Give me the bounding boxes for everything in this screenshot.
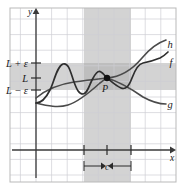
y-axis-label: y <box>27 7 33 17</box>
y-tick-label-l-plus-epsilon: L + ε <box>5 58 29 69</box>
y-tick-label-l-minus-epsilon: L − ε <box>5 85 29 96</box>
curve-label-h: h <box>167 39 172 50</box>
x-axis-label: x <box>169 153 175 163</box>
point-p-label: P <box>101 83 108 94</box>
squeeze-theorem-figure: L + ε L L − ε y x P c h f g <box>0 0 186 191</box>
graph-canvas: L + ε L L − ε y x P c h f g <box>0 0 186 191</box>
curve-label-g: g <box>167 99 172 110</box>
y-tick-label-l: L <box>21 73 28 84</box>
point-p-marker <box>104 75 110 81</box>
delta-band-vertical <box>84 8 131 182</box>
